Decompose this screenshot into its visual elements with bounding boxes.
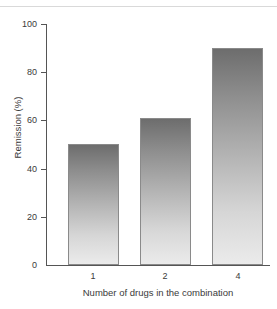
bar-4-drugs — [212, 48, 263, 265]
x-tick-label-4: 4 — [218, 272, 258, 281]
y-axis-label: Remission (%) — [12, 78, 23, 178]
y-tick-100 — [41, 24, 46, 25]
bar-1-drug — [68, 144, 119, 265]
y-axis-spine — [46, 24, 47, 266]
y-tick-label-80: 80 — [5, 68, 37, 77]
y-tick-label-0: 0 — [5, 261, 37, 270]
x-axis-label: Number of drugs in the combination — [46, 287, 270, 298]
y-tick-20 — [41, 217, 46, 218]
chart-figure: 100 80 60 40 20 0 1 2 4 Remission (%) Nu… — [0, 0, 277, 309]
bar-2-drugs — [140, 118, 191, 265]
x-axis-spine — [46, 265, 270, 266]
y-tick-40 — [41, 169, 46, 170]
y-tick-80 — [41, 72, 46, 73]
x-tick-label-2: 2 — [145, 272, 185, 281]
y-tick-label-20: 20 — [5, 213, 37, 222]
x-tick-label-1: 1 — [73, 272, 113, 281]
plot-area: 100 80 60 40 20 0 1 2 4 Remission (%) Nu… — [0, 0, 277, 309]
y-tick-60 — [41, 120, 46, 121]
y-tick-label-100: 100 — [5, 20, 37, 29]
